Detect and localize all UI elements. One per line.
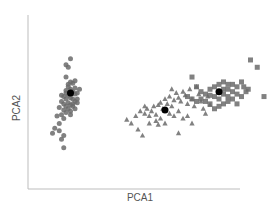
triangle-data-point — [180, 116, 185, 121]
triangle-data-point — [189, 121, 194, 126]
data-points — [50, 56, 267, 150]
triangle-data-point — [192, 103, 197, 108]
square-data-point — [255, 65, 260, 70]
circle-data-point — [59, 137, 64, 142]
square-data-point — [208, 101, 213, 106]
triangle-data-point — [147, 121, 152, 126]
triangle-data-point — [138, 108, 143, 113]
triangle-data-point — [135, 127, 140, 132]
square-data-point — [239, 94, 244, 99]
square-data-point — [217, 104, 222, 109]
square-data-point — [262, 94, 267, 99]
pca-scatter-plot — [0, 0, 270, 214]
circle-data-point — [75, 100, 80, 105]
triangle-data-point — [165, 101, 170, 106]
square-data-point — [212, 84, 217, 89]
square-data-point — [230, 89, 235, 94]
square-data-point — [226, 87, 231, 92]
square-data-point — [241, 84, 246, 89]
circle-data-point — [64, 75, 69, 80]
circle-data-point — [61, 116, 66, 121]
triangle-data-point — [133, 113, 138, 118]
circle-data-point — [66, 65, 71, 70]
square-data-point — [203, 92, 208, 97]
square-data-point — [221, 79, 226, 84]
circle-data-point — [59, 93, 64, 98]
square-data-point — [235, 92, 240, 97]
circle-data-point — [68, 112, 73, 117]
triangle-data-point — [140, 133, 145, 138]
circle-data-point — [57, 128, 62, 133]
triangle-data-point — [158, 100, 163, 105]
triangle-data-point — [162, 121, 167, 126]
triangle-data-point — [147, 113, 152, 118]
square-data-point — [230, 97, 235, 102]
square-data-point — [212, 106, 217, 111]
triangle-data-point — [142, 103, 147, 108]
circle-data-point — [57, 105, 62, 110]
centroid-marker — [162, 106, 169, 113]
square-data-point — [199, 89, 204, 94]
triangle-data-point — [176, 130, 181, 135]
triangle-data-point — [201, 106, 206, 111]
square-data-point — [217, 97, 222, 102]
square-data-point — [244, 89, 249, 94]
circle-data-point — [70, 101, 75, 106]
square-data-point — [226, 94, 231, 99]
triangle-data-point — [129, 121, 134, 126]
triangle-data-point — [176, 108, 181, 113]
circle-data-point — [68, 79, 73, 84]
triangle-data-point — [162, 96, 167, 101]
square-data-point — [235, 84, 240, 89]
triangle-data-point — [185, 113, 190, 118]
square-data-point — [235, 101, 240, 106]
square-data-point — [230, 82, 235, 87]
square-data-point — [248, 57, 253, 62]
y-axis-label: PCA2 — [11, 93, 22, 123]
circle-data-point — [50, 131, 55, 136]
square-data-point — [226, 82, 231, 87]
triangle-data-point — [149, 108, 154, 113]
circle-data-point — [73, 106, 78, 111]
circle-data-point — [73, 86, 78, 91]
triangle-data-point — [180, 89, 185, 94]
square-data-point — [194, 99, 199, 104]
triangle-data-point — [124, 117, 129, 122]
triangle-data-point — [187, 86, 192, 91]
triangle-data-point — [171, 97, 176, 102]
square-data-point — [212, 94, 217, 99]
square-data-point — [203, 99, 208, 104]
square-data-point — [199, 97, 204, 102]
triangle-data-point — [142, 111, 147, 116]
square-data-point — [208, 93, 213, 98]
circle-data-point — [77, 87, 82, 92]
square-data-point — [190, 75, 195, 80]
triangle-data-point — [185, 101, 190, 106]
square-data-point — [208, 87, 213, 92]
triangle-data-point — [153, 118, 158, 123]
centroid-marker — [67, 89, 74, 96]
triangle-data-point — [153, 112, 158, 117]
circle-data-point — [55, 114, 60, 119]
triangle-data-point — [167, 94, 172, 99]
square-data-point — [190, 97, 195, 102]
triangle-data-point — [151, 103, 156, 108]
circle-data-point — [57, 121, 62, 126]
triangle-data-point — [169, 86, 174, 91]
square-data-point — [221, 101, 226, 106]
triangle-data-point — [171, 113, 176, 118]
square-data-point — [185, 94, 190, 99]
square-data-point — [194, 84, 199, 89]
triangle-data-point — [158, 116, 163, 121]
circle-data-point — [64, 110, 69, 115]
square-data-point — [226, 99, 231, 104]
centroid-marker — [216, 88, 223, 95]
square-data-point — [217, 82, 222, 87]
triangle-data-point — [203, 111, 208, 116]
circle-data-point — [61, 145, 66, 150]
circle-data-point — [68, 56, 73, 61]
triangle-data-point — [176, 95, 181, 100]
square-data-point — [239, 79, 244, 84]
triangle-data-point — [174, 90, 179, 95]
x-axis-label: PCA1 — [0, 192, 270, 203]
